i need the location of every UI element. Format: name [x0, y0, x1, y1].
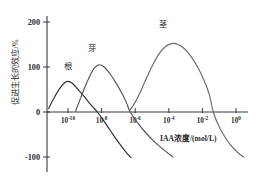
curve-label-root: 根 — [64, 61, 73, 71]
x-tick-label: 100 — [231, 115, 241, 125]
y-tick-label: 100 — [28, 63, 40, 72]
y-tick-label: 0 — [36, 108, 40, 117]
x-tick-label: 10-2 — [197, 115, 209, 125]
y-axis-title: 促进生长的效应/% — [10, 39, 20, 104]
iaa-response-chart: 2001000-100 10-1010-810-610-410-2100 根芽茎… — [0, 0, 261, 182]
chart-container: 2001000-100 10-1010-810-610-410-2100 根芽茎… — [0, 0, 261, 182]
x-tick-label: 10-4 — [163, 115, 175, 125]
x-axis-title: IAA浓度/(mol/L) — [160, 133, 217, 143]
curve-bud — [76, 65, 173, 157]
curve-label-group: 根芽茎 — [64, 19, 168, 71]
curve-label-stem: 茎 — [159, 19, 168, 29]
y-tick-label: -100 — [25, 153, 40, 162]
x-tick-label: 10-10 — [61, 115, 76, 125]
curve-label-bud: 芽 — [88, 43, 96, 53]
y-tick-label: 200 — [28, 18, 40, 27]
y-axis-ticks: 2001000-100 — [25, 18, 50, 162]
